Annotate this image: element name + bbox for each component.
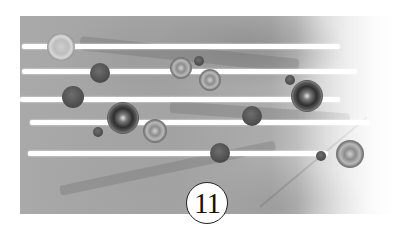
ring-spot: [143, 119, 167, 143]
ring-spot: [47, 33, 75, 61]
white-stripe: [30, 120, 370, 125]
figure-number-badge: 11: [186, 182, 228, 224]
ring-spot: [291, 80, 323, 112]
solid-spot: [62, 86, 84, 108]
solid-spot: [210, 143, 230, 163]
figure-number: 11: [194, 189, 220, 218]
solid-spot: [316, 151, 326, 161]
ring-spot: [170, 57, 192, 79]
solid-spot: [194, 56, 204, 66]
illustration-canvas: 11: [0, 0, 417, 244]
ring-spot: [336, 140, 364, 168]
solid-spot: [242, 106, 262, 126]
white-stripe: [28, 151, 328, 156]
solid-spot: [285, 75, 295, 85]
solid-spot: [90, 63, 110, 83]
ring-spot: [199, 69, 221, 91]
ring-spot: [107, 102, 139, 134]
solid-spot: [93, 127, 103, 137]
brush-streak: [59, 140, 276, 196]
